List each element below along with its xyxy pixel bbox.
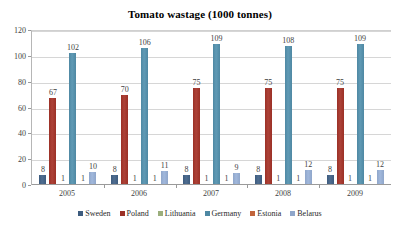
bar-value-label: 8 (256, 165, 260, 174)
legend-swatch-icon (158, 211, 163, 216)
y-axis-tick-label: 60 (0, 103, 26, 112)
chart-title: Tomato wastage (1000 tonnes) (0, 8, 400, 20)
bar-value-label: 8 (113, 165, 117, 174)
bar-poland[interactable] (265, 88, 272, 185)
bar-column[interactable]: 12 (377, 31, 384, 185)
bar-column[interactable]: 1 (347, 31, 354, 185)
legend-item-germany[interactable]: Germany (205, 209, 242, 218)
bar-column[interactable]: 70 (121, 31, 128, 185)
bar-germany[interactable] (357, 44, 364, 185)
x-axis-labels: 20052006200720082009 (31, 189, 391, 198)
legend-label: Estonia (257, 209, 281, 218)
bar-column[interactable]: 12 (305, 31, 312, 185)
bar-value-label: 12 (304, 160, 312, 169)
bar-column[interactable]: 1 (223, 31, 230, 185)
y-axis-tick-label: 40 (0, 129, 26, 138)
bar-value-label: 102 (67, 43, 79, 52)
bar-value-label: 1 (204, 174, 208, 183)
bar-belarus[interactable] (377, 170, 384, 186)
bar-value-label: 8 (184, 165, 188, 174)
bar-value-label: 67 (49, 88, 57, 97)
x-axis-tick-label: 2007 (175, 189, 247, 198)
y-axis-tick-mark (28, 30, 31, 31)
bar-column[interactable]: 1 (131, 31, 138, 185)
bar-value-label: 1 (296, 174, 300, 183)
bar-column[interactable]: 1 (275, 31, 282, 185)
bar-column[interactable]: 8 (183, 31, 190, 185)
bar-column[interactable]: 109 (213, 31, 220, 185)
bar-column[interactable]: 8 (111, 31, 118, 185)
bar-column[interactable]: 10 (89, 31, 96, 185)
bar-value-label: 9 (234, 163, 238, 172)
bar-value-label: 75 (336, 78, 344, 87)
bar-column[interactable]: 8 (327, 31, 334, 185)
y-axis-tick-mark (28, 159, 31, 160)
legend-swatch-icon (120, 211, 125, 216)
bar-poland[interactable] (337, 88, 344, 185)
y-axis-tick-label: 80 (0, 77, 26, 86)
bar-germany[interactable] (141, 48, 148, 185)
bar-belarus[interactable] (161, 171, 168, 185)
legend-item-poland[interactable]: Poland (120, 209, 149, 218)
bar-column[interactable]: 1 (151, 31, 158, 185)
bar-column[interactable]: 109 (357, 31, 364, 185)
bar-value-label: 10 (89, 162, 97, 171)
bar-value-label: 75 (264, 78, 272, 87)
bar-belarus[interactable] (305, 170, 312, 186)
y-axis-tick-mark (28, 133, 31, 134)
legend-swatch-icon (78, 211, 83, 216)
bar-value-label: 1 (81, 174, 85, 183)
x-axis-tick-label: 2008 (247, 189, 319, 198)
bar-value-label: 108 (282, 36, 294, 45)
bar-column[interactable]: 1 (79, 31, 86, 185)
bar-value-label: 1 (224, 174, 228, 183)
bar-column[interactable]: 1 (59, 31, 66, 185)
bar-poland[interactable] (49, 98, 56, 185)
bar-group: 8751108112 (247, 31, 319, 185)
bar-column[interactable]: 9 (233, 31, 240, 185)
bar-column[interactable]: 8 (255, 31, 262, 185)
bar-group-bars: 8751109112 (319, 31, 391, 185)
legend-label: Poland (127, 209, 149, 218)
bar-value-label: 75 (192, 78, 200, 87)
bar-group: 8701106111 (104, 31, 176, 185)
bar-poland[interactable] (121, 95, 128, 185)
bar-column[interactable]: 75 (337, 31, 344, 185)
bar-value-label: 1 (368, 174, 372, 183)
bar-column[interactable]: 1 (367, 31, 374, 185)
y-axis-tick-mark (28, 185, 31, 186)
legend-label: Sweden (85, 209, 110, 218)
bar-germany[interactable] (213, 44, 220, 185)
bar-column[interactable]: 106 (141, 31, 148, 185)
bar-value-label: 1 (133, 174, 137, 183)
bar-germany[interactable] (285, 46, 292, 186)
bar-column[interactable]: 102 (69, 31, 76, 185)
bar-groups: 8671102110870110611187511091987511081128… (32, 31, 391, 185)
x-axis-tick-label: 2009 (319, 189, 391, 198)
bar-value-label: 1 (276, 174, 280, 183)
bar-column[interactable]: 67 (49, 31, 56, 185)
x-axis-line (32, 184, 391, 185)
legend-item-sweden[interactable]: Sweden (78, 209, 110, 218)
bar-poland[interactable] (193, 88, 200, 185)
bar-group: 875110919 (176, 31, 248, 185)
bar-column[interactable]: 75 (265, 31, 272, 185)
bar-group: 8751109112 (319, 31, 391, 185)
bar-value-label: 70 (121, 85, 129, 94)
bar-value-label: 8 (328, 165, 332, 174)
legend-label: Belarus (297, 209, 321, 218)
bar-column[interactable]: 1 (203, 31, 210, 185)
bar-column[interactable]: 8 (39, 31, 46, 185)
bar-value-label: 1 (153, 174, 157, 183)
bar-value-label: 1 (348, 174, 352, 183)
legend-item-belarus[interactable]: Belarus (290, 209, 321, 218)
bar-value-label: 109 (210, 34, 222, 43)
legend-item-estonia[interactable]: Estonia (250, 209, 281, 218)
bar-column[interactable]: 11 (161, 31, 168, 185)
bar-column[interactable]: 1 (295, 31, 302, 185)
legend-item-lithuania[interactable]: Lithuania (158, 209, 196, 218)
y-axis-tick-mark (28, 82, 31, 83)
bar-column[interactable]: 108 (285, 31, 292, 185)
bar-germany[interactable] (69, 53, 76, 185)
bar-column[interactable]: 75 (193, 31, 200, 185)
